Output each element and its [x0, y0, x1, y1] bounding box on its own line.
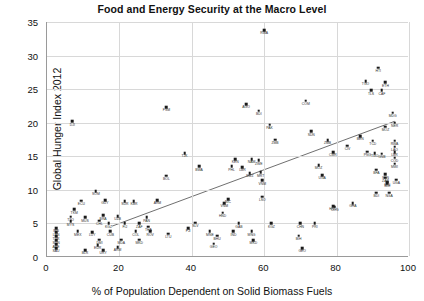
data-point-label: FJI	[186, 230, 191, 234]
x-tick-label: 0	[43, 262, 48, 273]
data-point-label: BDI	[256, 113, 262, 117]
data-point-label: FSM	[163, 109, 170, 113]
gridline-horizontal	[47, 89, 408, 90]
gridline-horizontal	[47, 156, 408, 157]
data-point-label: COL	[132, 234, 139, 238]
gridline-horizontal	[47, 190, 408, 191]
data-point-label: BWA	[195, 169, 203, 173]
data-point-label: MYS	[67, 224, 74, 228]
data-point-label: CUB	[107, 234, 114, 238]
data-point-label: MNG	[248, 234, 256, 238]
data-point-label: MOZ	[315, 167, 323, 171]
data-point-label: AGO	[242, 106, 250, 110]
data-point-label: PNG	[364, 154, 371, 158]
gridline-horizontal	[47, 22, 408, 23]
gridline-horizontal	[47, 123, 408, 124]
data-point-label: KBR	[130, 203, 137, 207]
gridline-vertical	[264, 22, 265, 256]
gridline-vertical	[337, 22, 338, 256]
data-point-label: VNM	[259, 183, 267, 187]
data-point-label: ETH	[382, 85, 389, 89]
data-point-label: BOL	[163, 178, 170, 182]
data-point-label: UGA	[318, 177, 325, 181]
data-point-label: SWZ	[246, 175, 254, 179]
data-point-label: GUY	[101, 202, 108, 206]
data-point-label: CAF	[378, 93, 385, 97]
data-point-label: KGZ	[105, 226, 112, 230]
data-point-label: GEO	[298, 250, 306, 254]
data-point-label: ARM	[154, 202, 162, 206]
data-point-label: SLE	[384, 185, 390, 189]
data-point-label: RWA	[260, 32, 268, 36]
data-point-label: SLV	[192, 225, 198, 229]
data-point-label: SUR	[121, 203, 128, 207]
data-point-label: SDN	[308, 134, 315, 138]
data-point-label: BLR	[82, 252, 89, 256]
data-point-label: PAK	[266, 127, 273, 131]
x-tick-label: 60	[258, 262, 269, 273]
data-point-label: ROV	[146, 234, 153, 238]
x-tick-label: 40	[186, 262, 197, 273]
data-point-label: LSO	[259, 199, 266, 203]
data-point-label: ECU	[78, 203, 85, 207]
data-point-label: ZAF	[136, 226, 142, 230]
data-point-label: TGO	[362, 83, 369, 87]
data-point-label: BFA	[373, 172, 379, 176]
data-point-label: TGO	[371, 155, 378, 159]
data-point-label: IND	[231, 234, 237, 238]
data-point-label: GHA	[349, 205, 356, 209]
data-point-label: PHL	[228, 169, 235, 173]
x-tick-label: 20	[113, 262, 124, 273]
data-point-label: THA	[145, 229, 152, 233]
data-point-label: DJI	[70, 124, 75, 128]
data-point-label: LTU	[165, 236, 171, 240]
data-point-label: SOM	[92, 193, 100, 197]
data-point-label: CMR	[329, 154, 337, 158]
data-point-label: SAU	[53, 250, 60, 254]
data-point-label: MRT	[257, 175, 264, 179]
data-point-label: MKD	[136, 242, 144, 246]
data-point-label: NGA	[385, 195, 392, 199]
data-point-label: UZB	[114, 218, 121, 222]
data-point-label: KGZ	[268, 226, 275, 230]
data-point-label: MKD	[250, 242, 258, 246]
data-point-label: ZWE	[255, 163, 263, 167]
data-point-label: MEX	[74, 234, 81, 238]
data-point-label: BEN	[357, 138, 364, 142]
data-point-label: MDG	[389, 115, 397, 119]
data-point-label: ZMB	[271, 142, 278, 146]
data-point-label: MWI	[391, 166, 398, 170]
data-point-label: CHN	[297, 226, 304, 230]
data-point-label: COM	[302, 103, 310, 107]
data-point-label: CHL	[96, 223, 103, 227]
plot-area: DJISOMECUGUYSURARMTKMTTOMYSMUSBRACHLUZBP…	[46, 22, 408, 257]
gridline-vertical	[409, 22, 410, 256]
data-point-label: HTI	[375, 70, 380, 74]
gridline-vertical	[192, 22, 193, 256]
data-point-label: GNB	[378, 156, 385, 160]
data-point-label: MOZ	[382, 129, 390, 133]
data-point-label: NIC	[225, 201, 231, 205]
gridline-horizontal	[47, 56, 408, 57]
data-point-label: VNM	[221, 205, 229, 209]
data-point-label: PRI	[312, 226, 318, 230]
data-point-label: BDI	[374, 195, 380, 199]
data-point-label: COG	[331, 209, 339, 213]
data-point-label: BHU	[214, 238, 221, 242]
data-point-label: TLS	[368, 93, 374, 97]
data-point-label: CIV	[345, 148, 351, 152]
chart-container: Food and Energy Security at the Macro Le…	[0, 0, 424, 301]
data-point-label: TJK	[182, 155, 188, 159]
chart-title: Food and Energy Security at the Macro Le…	[0, 3, 424, 15]
data-point-label: GAB	[235, 226, 242, 230]
data-point-label: GEO	[210, 246, 218, 250]
y-axis-title-container: Global Hunger Index 2012	[0, 0, 18, 257]
data-point-label: PAN	[143, 220, 150, 224]
data-point-label: LUY	[89, 234, 96, 238]
x-tick-label: 80	[330, 262, 341, 273]
data-point-label: MUS	[81, 220, 89, 224]
data-point-label: ARM	[114, 249, 122, 253]
data-point-label: URY	[100, 252, 107, 256]
x-tick-label: 100	[400, 262, 416, 273]
data-point-label: NER	[391, 125, 398, 129]
